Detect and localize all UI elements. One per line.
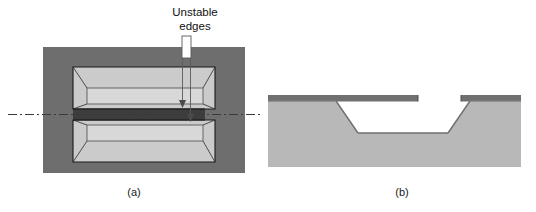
panel-b-substrate <box>268 101 521 167</box>
figure-root: Unstable edges (a) (b) <box>0 0 536 212</box>
upper-pit-bottom <box>87 88 203 104</box>
annotation-line-1: Unstable <box>150 6 240 20</box>
thin-film-right-anchor <box>461 95 521 102</box>
unstable-edges-annotation: Unstable edges <box>150 6 240 33</box>
lower-pit-bottom <box>87 125 203 141</box>
panel-a-caption: (a) <box>0 186 268 198</box>
callout-box <box>182 36 191 58</box>
upper-etch-pit <box>73 67 215 109</box>
panel-b-group <box>268 95 521 167</box>
lower-etch-pit <box>73 120 215 162</box>
thin-film-cantilever <box>268 95 418 102</box>
panel-a-group <box>8 36 262 173</box>
panel-b-caption: (b) <box>268 186 536 198</box>
annotation-line-2: edges <box>150 20 240 34</box>
diagram-canvas <box>0 0 536 212</box>
